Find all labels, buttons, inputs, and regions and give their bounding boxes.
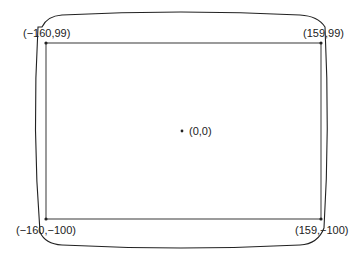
corner-dot-bottom-left: [44, 217, 47, 220]
origin-dot: [181, 130, 184, 133]
label-bottom-right: (159,−100): [295, 224, 349, 236]
corner-dot-top-right: [319, 41, 322, 44]
screen-outline-graphic: [0, 0, 362, 261]
label-top-right: (159,99): [303, 27, 344, 39]
label-top-left: (−160,99): [23, 27, 70, 39]
corner-dot-top-left: [44, 41, 47, 44]
screen-area-rectangle: [46, 43, 321, 219]
coordinate-diagram: (−160,99) (159,99) (−160,−100) (159,−100…: [0, 0, 362, 261]
label-bottom-left: (−160,−100): [16, 224, 76, 236]
corner-dot-bottom-right: [319, 217, 322, 220]
label-origin: (0,0): [189, 125, 212, 137]
